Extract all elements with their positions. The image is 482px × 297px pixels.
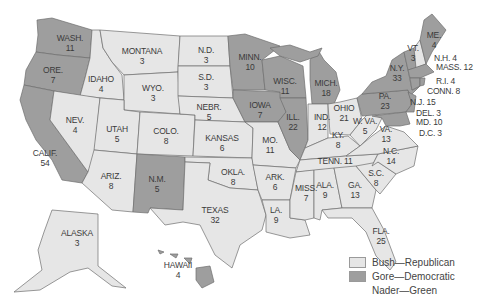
label-ky: KY.8 xyxy=(332,131,344,150)
label-wyo: WYO.3 xyxy=(142,84,164,103)
label-minn: MINN.10 xyxy=(238,53,261,72)
state-hawaii-kauai xyxy=(158,250,164,254)
label-va: VA.13 xyxy=(380,125,392,144)
label-idaho: IDAHO4 xyxy=(88,75,114,94)
label-nm: N.M.5 xyxy=(148,175,165,194)
label-iowa: IOWA7 xyxy=(249,101,271,120)
label-colo: COLO.8 xyxy=(153,127,178,146)
legend-item-gore: Gore—Democratic xyxy=(349,269,455,283)
label-calif: CALIF.54 xyxy=(33,149,57,168)
label-nev: NEV.4 xyxy=(66,116,84,135)
legend-label-bush: Bush—Republican xyxy=(372,257,455,268)
label-ark: ARK.6 xyxy=(265,173,284,192)
label-tenn: TENN. 11 xyxy=(317,157,352,167)
legend-item-nader: Nader—Green xyxy=(349,283,455,297)
label-mo: MO.11 xyxy=(262,136,277,155)
label-conn: CONN. 8 xyxy=(427,87,460,97)
label-kansas: KANSAS6 xyxy=(205,134,238,153)
label-nd: N.D.3 xyxy=(198,46,214,65)
label-ohio: OHIO21 xyxy=(334,104,355,123)
label-fla: FLA.25 xyxy=(372,227,389,246)
nader-swatch xyxy=(349,285,366,296)
label-md: MD. 10 xyxy=(416,118,442,128)
label-mich: MICH.18 xyxy=(314,79,337,98)
label-ill: ILL.22 xyxy=(286,113,299,132)
legend-item-bush: Bush—Republican xyxy=(349,255,455,269)
label-miss: MISS.7 xyxy=(295,184,317,203)
state-alaska xyxy=(14,210,126,292)
label-wash: WASH.11 xyxy=(57,34,84,53)
label-la: LA.9 xyxy=(270,206,282,225)
label-ala: ALA.9 xyxy=(316,181,334,200)
label-sd: S.D.3 xyxy=(198,73,214,92)
bush-swatch xyxy=(349,257,366,268)
gore-swatch xyxy=(349,271,366,282)
label-sc: S.C.8 xyxy=(368,169,384,188)
label-me: ME.4 xyxy=(427,31,442,50)
label-wisc: WISC.11 xyxy=(273,77,297,96)
label-nc: N.C.14 xyxy=(383,147,399,166)
label-utah: UTAH5 xyxy=(106,125,128,144)
label-wva: W. VA.5 xyxy=(353,117,377,136)
label-alaska: ALASKA3 xyxy=(61,229,93,248)
state-hawaii-oahu xyxy=(170,254,178,258)
label-ga: GA.13 xyxy=(348,181,362,200)
label-nj: N.J. 15 xyxy=(410,98,436,108)
label-vt: VT.3 xyxy=(407,44,419,63)
legend-label-nader: Nader—Green xyxy=(372,285,437,296)
state-rhode-island xyxy=(420,78,425,86)
label-nebr: NEBR.5 xyxy=(197,103,222,122)
legend-label-gore: Gore—Democratic xyxy=(372,271,455,282)
label-ind: IND.12 xyxy=(314,113,330,132)
label-ny: N.Y.33 xyxy=(390,64,405,83)
label-texas: TEXAS32 xyxy=(202,206,229,225)
label-ariz: ARIZ.8 xyxy=(101,172,122,191)
label-montana: MONTANA3 xyxy=(122,47,162,66)
state-connecticut xyxy=(410,78,420,90)
state-hawaii-big-island xyxy=(196,266,214,288)
label-mass: MASS. 12 xyxy=(436,63,473,73)
map-legend: Bush—Republican Gore—Democratic Nader—Gr… xyxy=(349,255,455,297)
label-dc: D.C. 3 xyxy=(419,129,442,139)
label-pa: PA.23 xyxy=(379,92,391,111)
label-okla: OKLA.8 xyxy=(221,168,245,187)
label-hawaii: HAWAII4 xyxy=(164,261,192,280)
label-ore: ORE.7 xyxy=(43,66,63,85)
